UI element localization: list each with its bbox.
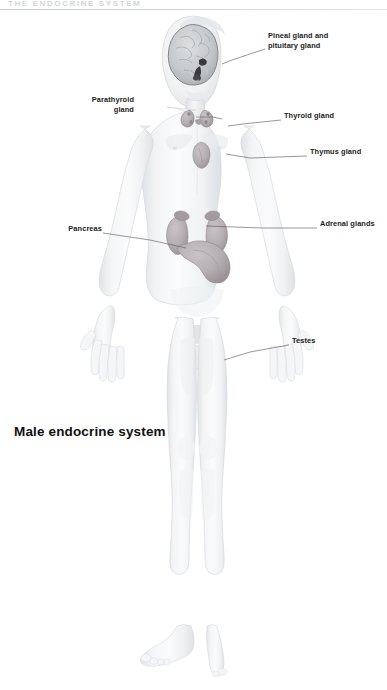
leader-pancreas (103, 233, 186, 248)
label-thymus-gland: Thymus gland (310, 147, 387, 157)
running-header-title: The endocrine system (8, 0, 141, 8)
leader-thyroid (228, 120, 281, 126)
leader-adrenal (206, 226, 317, 228)
label-pineal-and-pituitary-gland: Pineal gland and pituitary gland (268, 31, 386, 50)
leader-pineal-pituitary (222, 49, 265, 64)
leader-thymus (226, 154, 307, 158)
label-pancreas: Pancreas (2, 224, 102, 234)
figure-caption: Male endocrine system (14, 424, 166, 439)
textbook-figure-page: The endocrine system (0, 0, 387, 690)
anatomical-figure: Pineal gland and pituitary gland Parathy… (0, 10, 387, 690)
label-testes: Testes (292, 336, 352, 346)
label-parathyroid-gland: Parathyroid gland (34, 95, 134, 114)
leader-parathyroid (196, 117, 222, 119)
leader-testes (224, 345, 289, 360)
label-thyroid-gland: Thyroid gland (284, 111, 384, 121)
label-adrenal-glands: Adrenal glands (320, 219, 387, 229)
